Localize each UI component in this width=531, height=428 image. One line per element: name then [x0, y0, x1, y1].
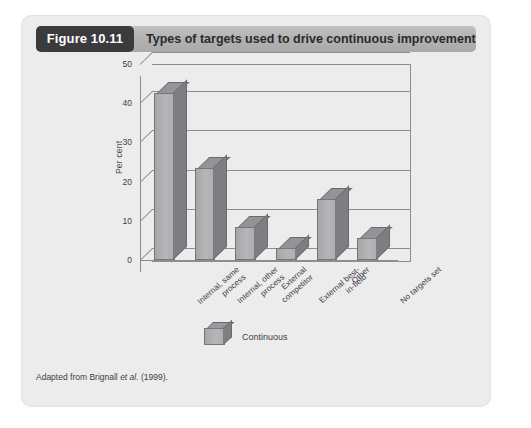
gridline-40	[152, 91, 410, 92]
depth-connector-20	[140, 170, 153, 183]
gridline-20	[152, 170, 410, 171]
figure-panel: Figure 10.11 Types of targets used to dr…	[22, 16, 490, 406]
plot-area	[140, 64, 410, 272]
source-suffix: (1999).	[141, 372, 168, 382]
depth-connector-10	[140, 209, 153, 222]
bar-2	[235, 229, 254, 260]
bar-5	[357, 240, 376, 260]
y-tick-40: 40	[106, 98, 132, 108]
y-tick-10: 10	[106, 216, 132, 226]
bar-side-face	[213, 154, 227, 260]
bar-0	[154, 95, 173, 260]
source-italic: et al.	[120, 372, 138, 382]
y-tick-0: 0	[106, 255, 132, 265]
legend-item-label: Continuous	[242, 332, 288, 342]
depth-connector-0	[140, 248, 153, 261]
bar-front-face	[154, 93, 175, 260]
x-label-0: Internal, sameprocess	[195, 265, 247, 314]
depth-connector-30	[140, 131, 153, 144]
x-axis-line	[140, 260, 398, 261]
source-prefix: Adapted from Brignall	[36, 372, 118, 382]
y-tick-30: 30	[106, 137, 132, 147]
depth-connector-50	[140, 52, 153, 65]
plot-left-edge	[140, 76, 141, 272]
figure-title: Types of targets used to drive continuou…	[146, 26, 476, 52]
bar-3	[276, 250, 295, 260]
chart-area: Per cent 01020304050 Internal, sameproce…	[36, 56, 476, 356]
bar-front-face	[235, 227, 256, 260]
bar-side-face	[173, 80, 187, 260]
cube-icon	[204, 330, 223, 345]
figure-header: Figure 10.11 Types of targets used to dr…	[36, 26, 476, 52]
figure-number-badge: Figure 10.11	[36, 26, 134, 52]
bar-4	[317, 201, 336, 260]
bar-1	[195, 170, 214, 260]
gridline-50	[152, 52, 410, 53]
bar-front-face	[276, 248, 297, 260]
bar-front-face	[357, 238, 378, 260]
gridline-30	[152, 130, 410, 131]
source-note: Adapted from Brignall et al. (1999).	[36, 372, 168, 382]
y-tick-50: 50	[106, 59, 132, 69]
y-tick-20: 20	[106, 177, 132, 187]
depth-connector-40	[140, 92, 153, 105]
gridline-10	[152, 209, 410, 210]
